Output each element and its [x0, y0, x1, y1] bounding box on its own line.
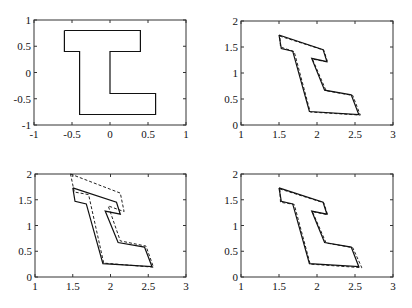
x-tick-label: 1 [32, 280, 38, 292]
series-dashed-line [280, 36, 361, 115]
y-tick-label: 0.5 [224, 93, 238, 105]
y-tick-label: 0.5 [224, 245, 238, 257]
x-tick-label: 1.5 [272, 280, 286, 292]
series-solid-line [279, 188, 359, 267]
x-tick-label: -0.5 [63, 128, 81, 140]
panel-bottom-right: 11.522.5321.510.50 [224, 168, 396, 292]
y-tick-label: 2 [27, 168, 33, 180]
x-tick-label: 1.5 [66, 280, 80, 292]
y-tick-label: 0 [26, 67, 32, 79]
x-tick-label: 1 [238, 128, 244, 140]
y-tick-label: 1.5 [18, 194, 32, 206]
y-tick-label: 2 [233, 15, 239, 27]
y-tick-label: 0.5 [18, 245, 32, 257]
x-tick-label: 3 [390, 280, 396, 292]
x-tick-label: 2.5 [348, 128, 362, 140]
series-solid-line [64, 31, 155, 115]
x-tick-label: 3 [183, 280, 189, 292]
y-tick-label: 2 [233, 168, 239, 180]
y-tick-label: 0 [233, 119, 239, 131]
series-dashed-line [71, 174, 154, 267]
y-tick-label: 0.5 [17, 40, 31, 52]
x-tick-label: 2.5 [141, 280, 155, 292]
x-tick-label: 3 [390, 128, 396, 140]
y-tick-label: -0.5 [14, 93, 32, 105]
series-dashed-line [280, 189, 362, 268]
series-solid-line [279, 35, 359, 115]
panel-top-left: -1-0.500.5110.50-0.5-1 [14, 14, 189, 140]
x-tick-label: 2.5 [348, 280, 362, 292]
x-tick-label: 0.5 [141, 128, 155, 140]
x-tick-label: 2 [314, 280, 320, 292]
series-solid-line [73, 188, 152, 267]
x-tick-label: 0 [107, 128, 113, 140]
y-tick-label: 1 [27, 220, 33, 232]
x-tick-label: 2 [108, 280, 114, 292]
x-tick-label: 2 [314, 128, 320, 140]
y-tick-label: 0 [27, 271, 33, 283]
y-tick-label: 1.5 [224, 41, 238, 53]
y-tick-label: 1 [26, 14, 32, 26]
figure-canvas: -1-0.500.5110.50-0.5-1 11.522.5321.510.5… [0, 0, 412, 308]
x-tick-label: 1 [238, 280, 244, 292]
y-tick-label: 1.5 [224, 194, 238, 206]
panel-top-right: 11.522.5321.510.50 [224, 15, 396, 140]
panel-bottom-left: 11.522.5321.510.50 [18, 168, 189, 292]
y-tick-label: 1 [233, 67, 239, 79]
y-tick-label: -1 [22, 119, 31, 131]
y-tick-label: 0 [233, 271, 239, 283]
y-tick-label: 1 [233, 220, 239, 232]
x-tick-label: 1 [183, 128, 189, 140]
x-tick-label: 1.5 [272, 128, 286, 140]
